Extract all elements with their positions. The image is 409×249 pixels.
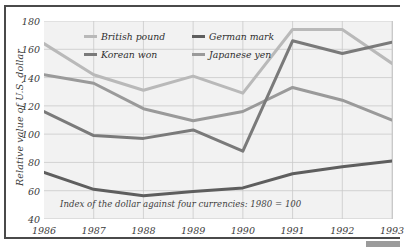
y-axis-tick-label: 40 bbox=[14, 214, 40, 225]
chart-annotation: Index of the dollar against four currenc… bbox=[60, 199, 301, 209]
x-axis-tick-label: 1990 bbox=[220, 225, 266, 236]
legend-item: German mark bbox=[192, 31, 296, 42]
x-axis-tick-label: 1986 bbox=[21, 225, 67, 236]
x-axis-tick-label: 1989 bbox=[170, 225, 216, 236]
y-axis-tick-label: 160 bbox=[14, 44, 40, 55]
legend-label: Japanese yen bbox=[209, 49, 271, 60]
chart-legend: British poundGerman markKorean wonJapane… bbox=[84, 31, 284, 60]
bottom-rule bbox=[4, 237, 400, 239]
y-axis-tick-label: 140 bbox=[14, 72, 40, 83]
x-axis-tick-label: 1987 bbox=[71, 225, 117, 236]
legend-label: Korean won bbox=[101, 49, 157, 60]
left-rule bbox=[4, 5, 6, 239]
legend-swatch-icon bbox=[84, 53, 97, 56]
x-axis-tick-label: 1992 bbox=[319, 225, 365, 236]
legend-label: German mark bbox=[209, 31, 274, 42]
y-axis-title: Relative value of U.S. dollar bbox=[14, 30, 25, 206]
x-axis-tick-label: 1993 bbox=[369, 225, 409, 236]
legend-item: Japanese yen bbox=[192, 49, 296, 60]
top-rule bbox=[4, 5, 400, 7]
legend-item: British pound bbox=[84, 31, 192, 42]
legend-label: British pound bbox=[101, 31, 165, 42]
legend-swatch-icon bbox=[84, 35, 97, 38]
x-axis-tick-label: 1991 bbox=[270, 225, 316, 236]
y-axis-tick-label: 100 bbox=[14, 129, 40, 140]
series-line bbox=[44, 75, 392, 121]
legend-swatch-icon bbox=[192, 35, 205, 38]
legend-swatch-icon bbox=[192, 53, 205, 56]
x-axis-tick-label: 1988 bbox=[120, 225, 166, 236]
y-axis-tick-label: 80 bbox=[14, 157, 40, 168]
legend-item: Korean won bbox=[84, 49, 192, 60]
corner-block bbox=[366, 241, 400, 247]
y-axis-tick-label: 180 bbox=[14, 16, 40, 27]
y-axis-tick-label: 60 bbox=[14, 185, 40, 196]
y-axis-tick-label: 120 bbox=[14, 100, 40, 111]
